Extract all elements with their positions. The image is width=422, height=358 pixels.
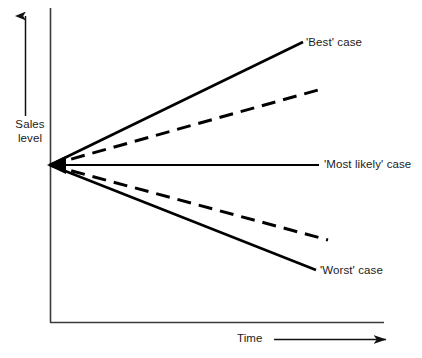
chart-canvas bbox=[0, 0, 422, 358]
worst-case-label: 'Worst' case bbox=[320, 264, 383, 278]
sales-level-axis-label: Sales level bbox=[8, 118, 52, 145]
best-case-label: 'Best' case bbox=[306, 36, 362, 50]
time-axis-label: Time bbox=[237, 332, 263, 346]
series-line-worst-case bbox=[50, 165, 316, 270]
sales-forecast-fan-chart: Sales level 'Best' case 'Most likely' ca… bbox=[0, 0, 422, 358]
most-likely-case-label: 'Most likely' case bbox=[324, 158, 411, 172]
series-line-lower-bound-dashed bbox=[50, 165, 328, 240]
